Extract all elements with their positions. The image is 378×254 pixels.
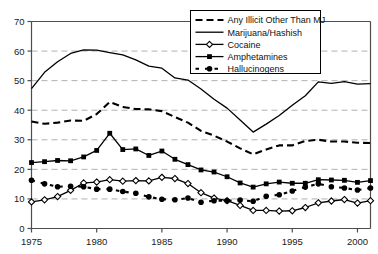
marker-circle [316,181,322,187]
x-tick-label: 1980 [86,236,107,247]
marker-square [277,180,282,185]
marker-square [225,174,230,179]
marker-diamond [159,174,165,180]
legend-label: Amphetamines [228,52,289,62]
y-tick-label: 0 [19,223,24,234]
y-tick-label: 40 [14,105,25,116]
marker-square [55,158,60,163]
marker-square [173,157,178,162]
marker-circle [329,184,335,190]
legend-label: Marijuana/Hashish [228,28,303,38]
marker-circle [263,193,269,199]
marker-circle [355,187,361,193]
marker-square [94,148,99,153]
marker-circle [303,184,309,190]
marker-circle [250,198,256,204]
marker-square [355,180,360,185]
marker-square [29,160,34,165]
marker-square [133,147,138,152]
marker-diamond [237,202,243,208]
x-tick-label: 1990 [217,236,238,247]
marker-circle [237,197,243,203]
marker-diamond [107,177,113,183]
marker-circle [55,184,61,190]
marker-circle [133,191,139,197]
marker-square [186,162,191,167]
marker-circle [207,66,213,72]
marker-circle [120,189,126,195]
x-tick-label: 1985 [151,236,172,247]
series-group [28,50,373,214]
y-tick-label: 50 [14,75,25,86]
marker-diamond [302,204,308,210]
legend-label: Hallucinogens [228,64,285,74]
marker-square [290,181,295,186]
marker-circle [68,183,74,189]
marker-circle [107,186,113,192]
marker-circle [185,195,191,201]
marker-diamond [28,199,34,205]
marker-square [264,181,269,186]
marker-diamond [133,177,139,183]
marker-diamond [289,208,295,214]
marker-diamond [263,207,269,213]
marker-circle [159,196,165,202]
marker-square [120,147,125,152]
marker-circle [368,185,374,191]
marker-diamond [94,179,100,185]
marker-circle [198,199,204,205]
line-chart: 010203040506070197519801985199019952000A… [0,0,378,254]
legend-label: Any Illicit Other Than MJ [228,15,326,25]
y-tick-label: 10 [14,193,25,204]
marker-square [199,168,204,173]
y-tick-label: 60 [14,46,25,57]
marker-circle [342,185,348,191]
marker-square [81,155,86,160]
marker-circle [289,188,295,194]
marker-square [368,178,373,183]
marker-circle [94,186,100,192]
marker-square [68,158,73,163]
chart-container: 010203040506070197519801985199019952000A… [0,0,378,254]
marker-diamond [341,196,347,202]
marker-diamond [315,200,321,206]
marker-square [212,170,217,175]
marker-circle [224,198,230,204]
y-tick-label: 20 [14,164,25,175]
marker-square [329,178,334,183]
marker-circle [276,192,282,198]
marker-circle [172,197,178,203]
y-tick-label: 70 [14,16,25,27]
y-tick-label: 30 [14,134,25,145]
marker-circle [42,181,48,187]
marker-square [207,54,212,59]
legend-label: Cocaine [228,40,261,50]
legend: Any Illicit Other Than MJMarijuana/Hashi… [191,11,326,75]
marker-diamond [276,208,282,214]
marker-square [42,159,47,164]
marker-circle [81,184,87,190]
marker-square [146,153,151,158]
x-tick-label: 2000 [347,236,368,247]
marker-diamond [120,178,126,184]
marker-diamond [41,197,47,203]
marker-diamond [367,198,373,204]
marker-square [107,131,112,136]
x-axis-ticks: 197519801985199019952000 [21,229,368,247]
marker-circle [29,177,35,183]
x-tick-label: 1975 [21,236,42,247]
x-tick-label: 1995 [282,236,303,247]
marker-circle [211,198,217,204]
marker-diamond [172,175,178,181]
marker-diamond [146,178,152,184]
marker-square [238,181,243,186]
marker-square [251,185,256,190]
marker-square [342,178,347,183]
marker-diamond [250,207,256,213]
marker-circle [146,194,152,200]
marker-square [159,149,164,154]
marker-diamond [354,200,360,206]
